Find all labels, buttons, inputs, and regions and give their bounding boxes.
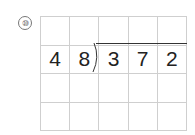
grid-cell[interactable] bbox=[129, 74, 158, 103]
work-grid: 4 8 3 7 2 bbox=[40, 16, 187, 131]
grid-cell[interactable] bbox=[99, 17, 128, 46]
grid-cell[interactable] bbox=[41, 103, 70, 132]
dividend-digit-hundreds: 3 bbox=[99, 46, 128, 75]
grid-cell[interactable] bbox=[129, 17, 158, 46]
problem-number-label: ⑩ bbox=[18, 16, 32, 30]
dividend-digit-tens: 7 bbox=[129, 46, 158, 75]
division-bar bbox=[96, 43, 187, 44]
grid-cell[interactable] bbox=[70, 103, 99, 132]
division-bracket-icon bbox=[90, 43, 100, 72]
grid-cell[interactable] bbox=[99, 74, 128, 103]
grid-cell[interactable] bbox=[41, 74, 70, 103]
grid-cell[interactable] bbox=[41, 17, 70, 46]
grid-cell[interactable] bbox=[158, 103, 187, 132]
grid-cell[interactable] bbox=[158, 17, 187, 46]
grid-cell[interactable] bbox=[70, 17, 99, 46]
divisor-digit-tens: 4 bbox=[41, 46, 70, 75]
dividend-digit-ones: 2 bbox=[158, 46, 187, 75]
grid-cell[interactable] bbox=[158, 74, 187, 103]
grid-cell[interactable] bbox=[99, 103, 128, 132]
grid-cell[interactable] bbox=[70, 74, 99, 103]
grid-cell[interactable] bbox=[129, 103, 158, 132]
